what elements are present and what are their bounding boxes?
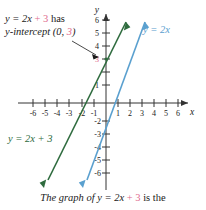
x-tick-label: 3 — [140, 109, 144, 118]
figure-graph-linear-equations: y = 2x + 3 has y-intercept (0, 3) — [0, 0, 206, 210]
x-axis-arrowhead — [181, 100, 188, 106]
x-axis-label: x — [189, 107, 195, 117]
y-tick-label: -2 — [94, 117, 101, 126]
x-tick-label: 2 — [128, 109, 132, 118]
y-tick-label: -3 — [94, 130, 101, 139]
y-axis — [103, 14, 109, 190]
x-axis — [18, 100, 188, 106]
blue-line-equation-label: y = 2x — [143, 24, 170, 35]
x-tick-label: 6 — [176, 109, 180, 118]
series-green-line — [40, 22, 131, 188]
x-tick-label: -4 — [54, 109, 61, 118]
x-tick-label: 5 — [164, 109, 168, 118]
x-axis-tick-labels: -6 -5 -4 -3 -2 -1 1 2 3 4 5 6 — [30, 109, 180, 118]
blue-line-arrowhead-bottom — [79, 180, 86, 188]
caption-post-text: is the — [141, 192, 166, 203]
x-tick-label: -3 — [66, 109, 73, 118]
y-intercept-point — [104, 57, 107, 60]
y-axis-tick-labels: 6 5 4 3 1 -2 -3 -4 -5 -6 — [94, 16, 101, 178]
x-tick-label: 4 — [152, 109, 156, 118]
y-tick-label: 4 — [95, 42, 99, 51]
y-tick-label: 5 — [95, 29, 99, 38]
caption-pre-text: The graph of y = 2x — [40, 192, 126, 203]
green-line-equation-label: y = 2x + 3 — [8, 133, 53, 144]
caption-accent-plus-three: + 3 — [127, 192, 141, 203]
y-axis-label: y — [94, 5, 100, 15]
y-tick-label: 6 — [95, 16, 99, 25]
x-tick-label: -6 — [30, 109, 37, 118]
y-tick-label: -6 — [94, 169, 101, 178]
coordinate-plane: -6 -5 -4 -3 -2 -1 1 2 3 4 5 6 6 5 4 3 1 … — [0, 0, 206, 210]
x-tick-label: 1 — [116, 109, 120, 118]
figure-caption: The graph of y = 2x + 3 is the — [0, 192, 206, 203]
green-line-arrowhead-bottom — [40, 180, 47, 189]
x-tick-label: -5 — [42, 109, 49, 118]
